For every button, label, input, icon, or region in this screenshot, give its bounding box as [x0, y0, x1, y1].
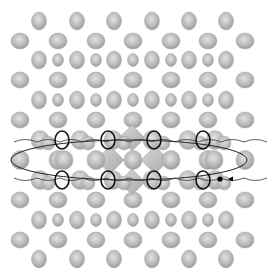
atom — [49, 72, 67, 88]
atom — [182, 12, 197, 30]
atom — [49, 232, 67, 248]
atom — [182, 91, 197, 109]
atom — [128, 94, 139, 107]
atom — [145, 12, 160, 30]
atom — [32, 211, 47, 229]
atom — [49, 33, 67, 49]
atom — [166, 94, 177, 107]
atom — [87, 192, 105, 208]
atom — [162, 33, 180, 49]
atom — [87, 33, 105, 49]
atom — [199, 72, 217, 88]
atom — [124, 72, 142, 88]
atom — [32, 12, 47, 30]
atom — [107, 12, 122, 30]
atom — [199, 112, 217, 128]
atom — [11, 72, 29, 88]
atom — [145, 51, 160, 69]
atom — [182, 211, 197, 229]
band-atom — [41, 176, 55, 190]
atom — [70, 51, 85, 69]
atom — [107, 91, 122, 109]
atom — [162, 72, 180, 88]
atom — [236, 112, 254, 128]
atom — [32, 91, 47, 109]
band-atom — [55, 151, 73, 170]
atom — [11, 33, 29, 49]
atom — [166, 214, 177, 227]
atom — [107, 51, 122, 69]
atom — [32, 250, 47, 268]
atom — [236, 72, 254, 88]
atom — [166, 54, 177, 67]
atom — [107, 250, 122, 268]
atom — [199, 33, 217, 49]
atom — [162, 192, 180, 208]
atom — [128, 214, 139, 227]
atom — [219, 51, 234, 69]
atom — [53, 94, 64, 107]
atom — [70, 12, 85, 30]
band-atom — [162, 151, 180, 170]
atom — [162, 112, 180, 128]
start-point-marker — [217, 176, 222, 181]
atom — [145, 91, 160, 109]
band-atom — [41, 136, 55, 150]
lattice-svg — [0, 0, 268, 271]
atom — [49, 192, 67, 208]
atom — [199, 232, 217, 248]
band-atom — [11, 151, 29, 170]
atom — [203, 94, 214, 107]
atom — [87, 72, 105, 88]
atom — [53, 214, 64, 227]
atom — [182, 250, 197, 268]
atom — [162, 232, 180, 248]
atom — [203, 214, 214, 227]
atom — [107, 211, 122, 229]
lattice-diagram — [0, 0, 268, 271]
highlight-band — [11, 125, 254, 195]
atom — [124, 232, 142, 248]
atom — [199, 192, 217, 208]
atom — [145, 250, 160, 268]
atom — [219, 211, 234, 229]
atom — [236, 192, 254, 208]
band-atom — [236, 151, 254, 170]
atom — [128, 54, 139, 67]
atom — [11, 232, 29, 248]
atom — [203, 54, 214, 67]
atom — [182, 51, 197, 69]
atom — [87, 232, 105, 248]
atom — [236, 33, 254, 49]
band-atom — [124, 151, 142, 170]
atom — [124, 33, 142, 49]
atom — [87, 112, 105, 128]
atom — [236, 232, 254, 248]
band-atom — [117, 136, 131, 150]
atom — [219, 91, 234, 109]
atom — [70, 250, 85, 268]
atom — [11, 192, 29, 208]
atom — [53, 54, 64, 67]
atom — [91, 214, 102, 227]
atom — [70, 211, 85, 229]
atom — [91, 54, 102, 67]
atom — [219, 12, 234, 30]
band-atom — [81, 136, 95, 150]
band-atom — [87, 151, 105, 170]
atom — [49, 112, 67, 128]
atom — [11, 112, 29, 128]
atom — [145, 211, 160, 229]
atom — [32, 51, 47, 69]
atom — [70, 91, 85, 109]
band-atom — [205, 151, 223, 170]
atom — [219, 250, 234, 268]
atom — [91, 94, 102, 107]
